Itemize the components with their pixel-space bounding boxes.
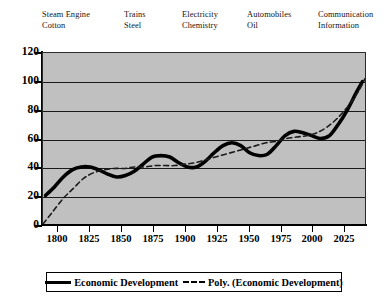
x-axis-label: 1800 (46, 233, 67, 244)
y-axis-label: 60 (28, 133, 40, 145)
era-label-secondary: Cotton (42, 21, 90, 32)
x-axis-label: 1975 (270, 233, 291, 244)
x-axis-label: 1950 (238, 233, 259, 244)
legend-item[interactable]: Economic Development (45, 277, 178, 288)
legend-item[interactable]: Poly. (Economic Development) (183, 277, 343, 288)
era-annotation: AutomobilesOil (247, 10, 291, 31)
x-axis-label: 1850 (110, 233, 131, 244)
legend-item-label: Poly. (Economic Development) (208, 277, 343, 288)
era-label-primary: Trains (124, 10, 146, 21)
x-axis-tick (89, 226, 90, 232)
x-axis-tick (281, 226, 282, 232)
plot-area (42, 52, 366, 225)
era-label-secondary: Steel (124, 21, 146, 32)
era-annotation: TrainsSteel (124, 10, 146, 31)
era-annotation: CommunicationInformation (318, 10, 373, 31)
y-axis-label: 0 (33, 219, 39, 231)
y-axis-label: 100 (22, 75, 39, 87)
era-annotations: Steam EngineCottonTrainsSteelElectricity… (42, 10, 388, 50)
era-label-secondary: Oil (247, 21, 291, 32)
x-axis-tick (153, 226, 154, 232)
x-axis-label: 1875 (142, 233, 163, 244)
x-axis-tick (249, 226, 250, 232)
legend-item-label: Economic Development (74, 277, 178, 288)
x-axis-tick (57, 226, 58, 232)
era-label-secondary: Chemistry (182, 21, 218, 32)
era-label-secondary: Information (318, 21, 373, 32)
y-axis-label: 20 (28, 190, 40, 202)
x-axis-label: 1825 (78, 233, 99, 244)
era-annotation: ElectricityChemistry (182, 10, 218, 31)
series-lines (43, 53, 365, 224)
trendline-path (43, 79, 365, 224)
era-label-primary: Automobiles (247, 10, 291, 21)
era-label-primary: Electricity (182, 10, 218, 21)
y-axis-label: 80 (28, 104, 40, 116)
y-axis-label: 40 (28, 161, 40, 173)
y-axis-label: 120 (22, 46, 39, 58)
economic-development-chart: Steam EngineCottonTrainsSteelElectricity… (0, 0, 388, 304)
x-axis-tick (121, 226, 122, 232)
x-axis-label: 2000 (301, 233, 322, 244)
x-axis-tick (312, 226, 313, 232)
era-label-primary: Communication (318, 10, 373, 21)
x-axis-label: 2025 (333, 233, 354, 244)
legend-dashed-line-icon (183, 281, 205, 283)
x-axis-label: 1925 (206, 233, 227, 244)
x-axis-tick (217, 226, 218, 232)
series-path (46, 81, 363, 195)
legend-solid-line-icon (45, 281, 71, 284)
chart-legend: Economic DevelopmentPoly. (Economic Deve… (46, 272, 342, 292)
x-axis-tick (344, 226, 345, 232)
x-axis-tick (185, 226, 186, 232)
x-axis-label: 1900 (174, 233, 195, 244)
era-annotation: Steam EngineCotton (42, 10, 90, 31)
era-label-primary: Steam Engine (42, 10, 90, 21)
